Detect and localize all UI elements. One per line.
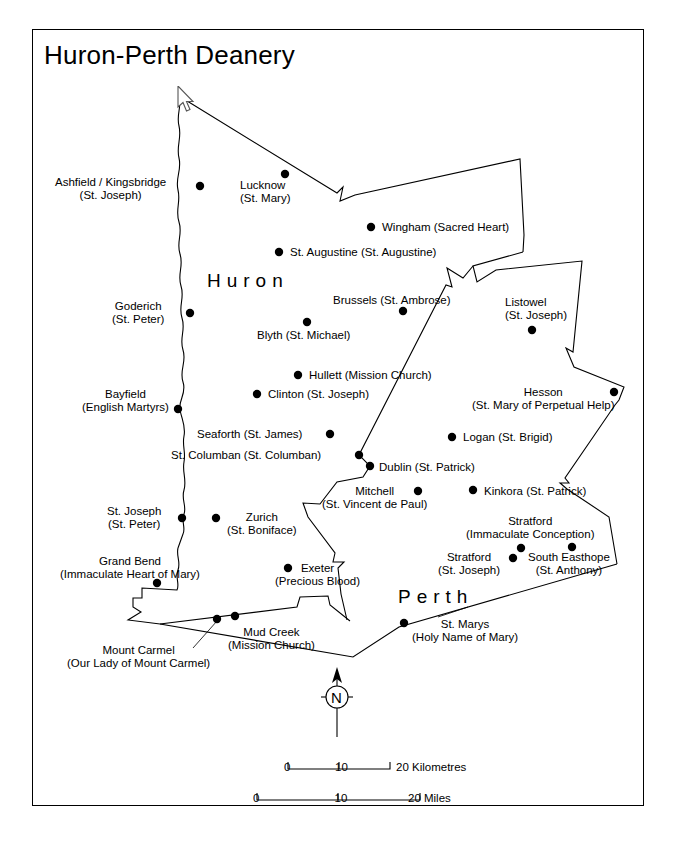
place-label-line: (St. Joseph)	[505, 309, 567, 322]
place-label-line: St. Joseph	[107, 505, 161, 518]
place-label-blyth: Blyth (St. Michael)	[257, 329, 350, 342]
place-label-line: Clinton (St. Joseph)	[268, 388, 369, 401]
place-label-line: Zurich	[227, 511, 297, 524]
scalebar-kilometres-tick-0: 0	[284, 761, 290, 773]
place-label-line: Bayfield	[82, 388, 169, 401]
place-label-line: (St. Joseph)	[438, 564, 500, 577]
place-label-seaforth: Seaforth (St. James)	[197, 428, 302, 441]
place-label-mount-carmel: Mount Carmel(Our Lady of Mount Carmel)	[67, 644, 210, 670]
place-label-line: Hullett (Mission Church)	[309, 369, 432, 382]
map-graphics	[0, 0, 675, 860]
place-label-hullett: Hullett (Mission Church)	[309, 369, 432, 382]
parish-dot-listowel[interactable]	[528, 326, 536, 334]
parish-dot-mount-carmel[interactable]	[213, 615, 221, 623]
place-label-line: (St. Peter)	[107, 518, 161, 531]
place-label-line: (English Martyrs)	[82, 401, 169, 414]
place-label-line: (St. Anthony)	[528, 564, 610, 577]
place-label-line: Stratford	[438, 551, 500, 564]
parish-dot-ashfield-kingsbridge[interactable]	[196, 182, 204, 190]
place-label-line: Brussels (St. Ambrose)	[333, 294, 451, 307]
place-label-line: Mud Creek	[228, 626, 315, 639]
parish-dot-clinton[interactable]	[253, 390, 261, 398]
place-label-wingham: Wingham (Sacred Heart)	[382, 221, 509, 234]
place-label-line: Hesson	[472, 386, 615, 399]
place-label-line: Goderich	[112, 300, 164, 313]
place-label-clinton: Clinton (St. Joseph)	[268, 388, 369, 401]
place-label-line: (Immaculate Heart of Mary)	[60, 568, 200, 581]
parish-dot-mud-creek[interactable]	[231, 612, 239, 620]
place-label-zurich: Zurich(St. Boniface)	[227, 511, 297, 537]
parish-dot-st-marys[interactable]	[400, 619, 408, 627]
place-label-line: South Easthope	[528, 551, 610, 564]
place-label-lucknow: Lucknow(St. Mary)	[240, 179, 290, 205]
parish-dot-logan[interactable]	[448, 433, 456, 441]
place-label-line: Grand Bend	[60, 555, 200, 568]
place-label-line: (Precious Blood)	[275, 575, 360, 588]
place-label-mud-creek: Mud Creek(Mission Church)	[228, 626, 315, 652]
place-label-line: Mitchell	[322, 485, 427, 498]
place-label-hesson: Hesson(St. Mary of Perpetual Help)	[472, 386, 615, 412]
parish-dot-brussels[interactable]	[399, 307, 407, 315]
parish-dot-hullett[interactable]	[294, 371, 302, 379]
place-label-line: (St. Boniface)	[227, 524, 297, 537]
place-label-stratford-sj: Stratford(St. Joseph)	[438, 551, 500, 577]
place-label-kinkora: Kinkora (St. Patrick)	[484, 485, 586, 498]
parish-dot-wingham[interactable]	[367, 223, 375, 231]
parish-dot-lucknow[interactable]	[281, 170, 289, 178]
parish-dot-seaforth[interactable]	[326, 430, 334, 438]
place-label-ashfield-kingsbridge: Ashfield / Kingsbridge(St. Joseph)	[55, 176, 166, 202]
parish-dot-st-joseph[interactable]	[178, 514, 186, 522]
parish-dot-zurich[interactable]	[212, 514, 220, 522]
place-label-listowel: Listowel(St. Joseph)	[505, 296, 567, 322]
scalebar-kilometres-tick-1: 10	[335, 761, 348, 773]
place-label-line: Listowel	[505, 296, 567, 309]
parish-dot-kinkora[interactable]	[469, 486, 477, 494]
shoreline-west	[177, 96, 185, 548]
county-name-perth: Perth	[398, 586, 473, 608]
place-label-line: (Holy Name of Mary)	[412, 631, 518, 644]
place-label-goderich: Goderich(St. Peter)	[112, 300, 164, 326]
place-label-dublin: Dublin (St. Patrick)	[379, 461, 475, 474]
scalebar-kilometres-unit-label: 20 Kilometres	[396, 761, 466, 773]
parish-dot-stratford-sj[interactable]	[509, 554, 517, 562]
place-label-mitchell: Mitchell(St. Vincent de Paul)	[322, 485, 427, 511]
place-label-logan: Logan (St. Brigid)	[463, 431, 553, 444]
place-label-bayfield: Bayfield(English Martyrs)	[82, 388, 169, 414]
parish-dot-dublin[interactable]	[366, 462, 374, 470]
place-label-line: (St. Mary of Perpetual Help)	[472, 399, 615, 412]
scalebar-miles-unit-label: 20 Miles	[408, 792, 451, 804]
place-label-st-joseph: St. Joseph(St. Peter)	[107, 505, 161, 531]
place-label-line: Seaforth (St. James)	[197, 428, 302, 441]
place-label-line: Mount Carmel	[67, 644, 210, 657]
place-label-line: Ashfield / Kingsbridge	[55, 176, 166, 189]
county-name-huron: Huron	[207, 270, 289, 292]
place-label-line: (St. Joseph)	[55, 189, 166, 202]
place-label-line: Wingham (Sacred Heart)	[382, 221, 509, 234]
place-label-exeter: Exeter(Precious Blood)	[275, 562, 360, 588]
place-label-line: (Our Lady of Mount Carmel)	[67, 657, 210, 670]
parish-dot-bayfield[interactable]	[174, 405, 182, 413]
place-label-line: (St. Vincent de Paul)	[322, 498, 427, 511]
parish-dot-south-easthope[interactable]	[568, 543, 576, 551]
leader-st-marys	[438, 607, 468, 617]
place-label-line: (Mission Church)	[228, 639, 315, 652]
place-label-line: (Immaculate Conception)	[466, 528, 594, 541]
place-label-line: Lucknow	[240, 179, 290, 192]
place-label-line: Logan (St. Brigid)	[463, 431, 553, 444]
place-label-line: (St. Mary)	[240, 192, 290, 205]
parish-dot-stratford-ic[interactable]	[517, 544, 525, 552]
place-label-grand-bend: Grand Bend(Immaculate Heart of Mary)	[60, 555, 200, 581]
place-label-line: Blyth (St. Michael)	[257, 329, 350, 342]
place-label-line: Dublin (St. Patrick)	[379, 461, 475, 474]
place-label-st-marys: St. Marys(Holy Name of Mary)	[412, 618, 518, 644]
parish-dot-goderich[interactable]	[186, 309, 194, 317]
place-label-st-columban: St. Columban (St. Columban)	[171, 449, 321, 462]
parish-dot-blyth[interactable]	[303, 318, 311, 326]
north-arrow-letter: N	[331, 689, 342, 706]
place-label-south-easthope: South Easthope(St. Anthony)	[528, 551, 610, 577]
parish-dot-st-augustine[interactable]	[275, 248, 283, 256]
parish-dot-st-columban[interactable]	[355, 451, 363, 459]
place-label-line: Kinkora (St. Patrick)	[484, 485, 586, 498]
place-label-line: St. Marys	[412, 618, 518, 631]
place-label-line: St. Columban (St. Columban)	[171, 449, 321, 462]
